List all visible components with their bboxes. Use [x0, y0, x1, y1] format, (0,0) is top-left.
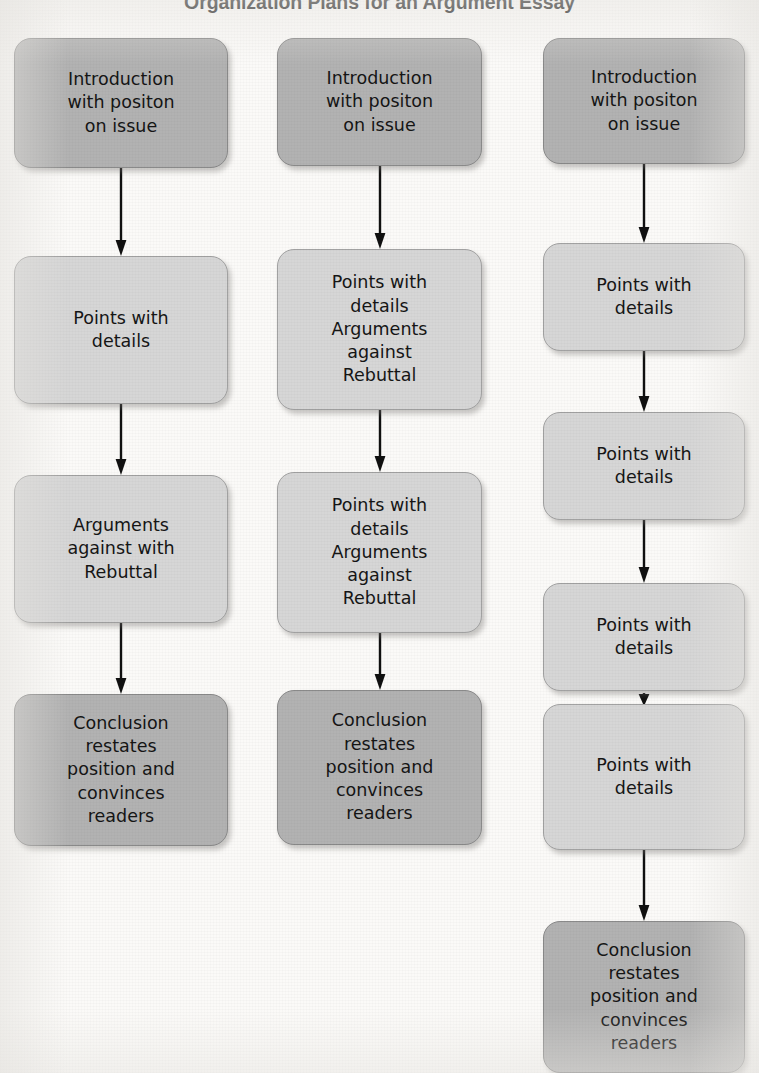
node-label: Points withdetails [21, 307, 221, 354]
node-label: Argumentsagainst withRebuttal [21, 514, 221, 584]
node-label: Points withdetails [550, 274, 738, 321]
node-conclusion: Conclusionrestatesposition andconvincesr… [543, 921, 745, 1073]
node-label: Conclusionrestatesposition andconvincesr… [550, 939, 738, 1055]
node-points-arguments-rebuttal-2: Points withdetailsArgumentsagainstRebutt… [277, 472, 482, 633]
node-points-details-1: Points withdetails [543, 243, 745, 351]
arrow-points-2-to-points-3-icon [637, 520, 651, 583]
arrow-points-4-to-conclusion-icon [637, 850, 651, 921]
arrow-points-3-to-points-4-icon [637, 691, 651, 704]
arrow-intro-to-points-icon [114, 168, 128, 256]
node-label: Points withdetails [550, 443, 738, 490]
page-title: Organization Plans for an Argument Essay [0, 0, 759, 14]
node-introduction: Introductionwith positonon issue [14, 38, 228, 168]
arrow-intro-to-body-1-icon [373, 166, 387, 249]
node-label: Introductionwith positonon issue [21, 68, 221, 138]
arrow-arguments-to-conclusion-icon [114, 623, 128, 694]
node-label: Introductionwith positonon issue [550, 66, 738, 136]
node-arguments-against-rebuttal: Argumentsagainst withRebuttal [14, 475, 228, 623]
node-label: Points withdetailsArgumentsagainstRebutt… [284, 271, 475, 387]
node-introduction: Introductionwith positonon issue [277, 38, 482, 166]
node-conclusion: Conclusionrestatesposition andconvincesr… [277, 690, 482, 845]
node-introduction: Introductionwith positonon issue [543, 38, 745, 164]
node-label: Conclusionrestatesposition andconvincesr… [284, 709, 475, 825]
node-points-details-3: Points withdetails [543, 583, 745, 691]
node-label: Introductionwith positonon issue [284, 67, 475, 137]
arrow-points-to-arguments-icon [114, 404, 128, 475]
arrow-points-1-to-points-2-icon [637, 351, 651, 412]
node-points-arguments-rebuttal-1: Points withdetailsArgumentsagainstRebutt… [277, 249, 482, 410]
arrow-body-2-to-conclusion-icon [373, 633, 387, 690]
node-points-details: Points withdetails [14, 256, 228, 404]
node-label: Points withdetails [550, 754, 738, 801]
node-points-details-2: Points withdetails [543, 412, 745, 520]
arrow-body-1-to-body-2-icon [373, 410, 387, 472]
node-label: Points withdetailsArgumentsagainstRebutt… [284, 494, 475, 610]
node-label: Points withdetails [550, 614, 738, 661]
node-label: Conclusionrestatesposition andconvincesr… [21, 712, 221, 828]
arrow-intro-to-points-1-icon [637, 164, 651, 243]
node-conclusion: Conclusionrestatesposition andconvincesr… [14, 694, 228, 846]
node-points-details-4: Points withdetails [543, 704, 745, 850]
